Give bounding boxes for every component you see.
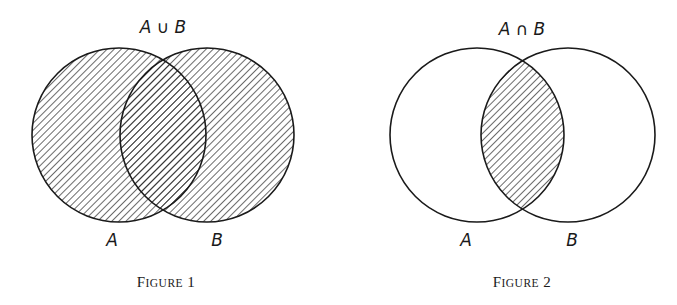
- set-b-label: B: [566, 230, 578, 250]
- set-a-label: A: [459, 230, 472, 250]
- intersection-label: A ∩ B: [498, 19, 546, 39]
- set-b-label: B: [211, 230, 223, 250]
- set-a-label: A: [105, 230, 118, 250]
- figure-1-union-diagram: A ∪ B A B FIGURE 1: [32, 17, 294, 290]
- union-label: A ∪ B: [139, 17, 187, 37]
- venn-diagrams: A ∪ B A B FIGURE 1 A ∩ B A B FIGURE 2: [0, 0, 677, 305]
- intersection-region: [481, 48, 655, 222]
- figure-2-intersection-diagram: A ∩ B A B FIGURE 2: [390, 19, 655, 290]
- figure-1-caption: FIGURE 1: [137, 274, 196, 290]
- figure-2-caption: FIGURE 2: [493, 274, 552, 290]
- set-b-circle: [120, 48, 294, 222]
